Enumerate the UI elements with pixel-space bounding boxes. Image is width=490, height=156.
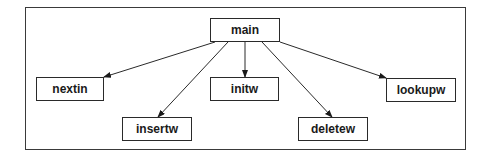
node-insertw-label: insertw (136, 122, 178, 136)
node-main-label: main (231, 23, 259, 37)
node-lookupw: lookupw (386, 78, 456, 102)
edge-main-lookupw (280, 42, 386, 78)
edge-main-nextin (104, 42, 215, 77)
node-insertw: insertw (122, 117, 192, 141)
node-initw-label: initw (231, 82, 258, 96)
node-deletew: deletew (298, 117, 368, 141)
node-nextin-label: nextin (52, 82, 87, 96)
node-initw: initw (210, 77, 279, 101)
node-lookupw-label: lookupw (397, 83, 446, 97)
call-graph-diagram: main nextin insertw initw deletew lookup… (0, 0, 490, 156)
node-main: main (210, 18, 280, 42)
node-nextin: nextin (36, 77, 104, 101)
node-deletew-label: deletew (311, 122, 355, 136)
